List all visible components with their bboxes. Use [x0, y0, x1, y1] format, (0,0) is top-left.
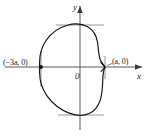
- plot-canvas: [0, 0, 151, 136]
- left-intercept-label: (−3a, 0): [3, 59, 28, 67]
- right-cusp-label: (a, 0): [112, 58, 128, 66]
- cardioid-figure: (−3a, 0) (a, 0) 0 x y: [0, 0, 151, 136]
- x-axis-label: x: [137, 72, 141, 81]
- origin-label: 0: [75, 72, 80, 81]
- tangent-lines: [41, 25, 105, 115]
- left-intercept-marker: [39, 65, 43, 69]
- cardioid-curve: [40, 24, 105, 115]
- y-axis-label: y: [73, 3, 77, 12]
